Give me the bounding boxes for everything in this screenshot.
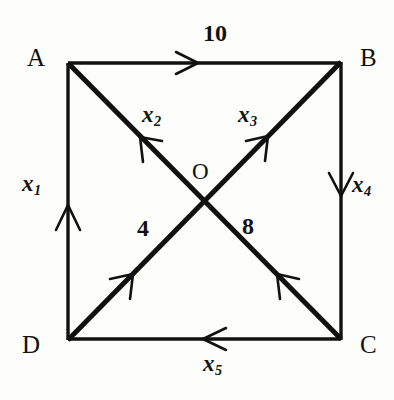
edge-label-b-c-base: x: [352, 172, 364, 197]
edge-label-d-a: x1: [22, 172, 41, 197]
edge-label-o-a-sub: 2: [154, 113, 161, 129]
diagram-canvas: [0, 0, 394, 400]
node-label-b: B: [360, 45, 377, 70]
node-label-a: A: [27, 45, 45, 70]
node-label-c: C: [360, 332, 377, 357]
edge-label-b-c: x4: [352, 173, 371, 198]
edge-label-c-o: 8: [242, 214, 254, 238]
edge-label-c-d-base: x: [203, 351, 215, 376]
edge-label-o-b-base: x: [238, 102, 250, 127]
edge-label-o-a: x2: [142, 103, 161, 128]
edge-label-o-b: x3: [238, 103, 257, 128]
edge-label-c-d: x5: [203, 352, 222, 377]
node-label-d: D: [22, 332, 40, 357]
edge-label-b-c-sub: 4: [364, 183, 371, 199]
edge-label-d-a-sub: 1: [34, 182, 41, 198]
edge-label-d-a-base: x: [22, 171, 34, 196]
edge-label-o-a-base: x: [142, 102, 154, 127]
edge-label-a-b: 10: [203, 21, 227, 45]
network-flow-diagram: A B C D O 10 x2 x3 x1 x4 4 8 x5: [0, 0, 394, 400]
node-label-o: O: [192, 160, 209, 183]
edge-label-d-o: 4: [137, 216, 149, 240]
edge-label-o-b-sub: 3: [250, 113, 257, 129]
edge-label-c-d-sub: 5: [215, 362, 222, 378]
